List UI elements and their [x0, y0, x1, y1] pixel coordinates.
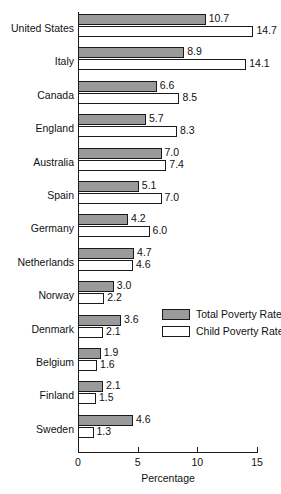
- bar-value-label: 3.6: [124, 314, 139, 325]
- bar-value-label: 8.9: [187, 46, 202, 57]
- bar-child: [78, 260, 133, 271]
- bar-child: [78, 126, 177, 137]
- category-label: Germany: [31, 223, 74, 234]
- bar-value-label: 14.7: [256, 25, 276, 36]
- x-axis-tick: [78, 447, 79, 452]
- bar-value-label: 1.9: [104, 347, 119, 358]
- bar-value-label: 3.0: [117, 280, 132, 291]
- x-axis-tick: [197, 447, 198, 452]
- bar-value-label: 8.5: [182, 92, 197, 103]
- bar-total: [78, 47, 184, 58]
- bar-child: [78, 160, 166, 171]
- legend-swatch-total-poverty-rate: [162, 309, 190, 320]
- bar-child: [78, 393, 96, 404]
- bar-total: [78, 248, 134, 259]
- bar-child: [78, 193, 162, 204]
- x-axis-tick-label: 5: [135, 456, 141, 468]
- bar-total: [78, 348, 101, 359]
- bar-child: [78, 93, 179, 104]
- bar-value-label: 1.6: [100, 359, 115, 370]
- bar-value-label: 2.1: [106, 326, 121, 337]
- x-axis-tick-label: 15: [251, 456, 263, 468]
- bar-value-label: 14.1: [249, 58, 269, 69]
- plot-area: United States10.714.7Italy8.914.1Canada6…: [0, 0, 281, 494]
- bar-value-label: 4.2: [131, 213, 146, 224]
- legend-swatch-child-poverty-rate: [162, 326, 190, 337]
- bar-value-label: 7.4: [169, 159, 184, 170]
- category-label: Sweden: [36, 424, 74, 435]
- bar-value-label: 5.1: [142, 180, 157, 191]
- category-label: Denmark: [31, 324, 74, 335]
- legend-label-child-poverty-rate: Child Poverty Rate: [196, 325, 281, 338]
- category-label: Spain: [47, 190, 74, 201]
- bar-total: [78, 14, 206, 25]
- category-label: Norway: [38, 290, 74, 301]
- x-axis-tick-label: 0: [75, 456, 81, 468]
- bar-total: [78, 81, 157, 92]
- bar-value-label: 6.0: [153, 225, 168, 236]
- bar-value-label: 1.5: [99, 392, 114, 403]
- bar-value-label: 5.7: [149, 113, 164, 124]
- category-label: Belgium: [36, 357, 74, 368]
- bar-child: [78, 427, 94, 438]
- bar-child: [78, 226, 150, 237]
- bar-value-label: 7.0: [165, 147, 180, 158]
- category-label: Italy: [55, 56, 74, 67]
- x-axis-title: Percentage: [78, 472, 258, 484]
- bar-value-label: 7.0: [165, 192, 180, 203]
- bar-value-label: 2.1: [106, 380, 121, 391]
- bar-value-label: 4.7: [137, 247, 152, 258]
- bar-child: [78, 327, 103, 338]
- x-axis-tick: [257, 447, 258, 452]
- category-label: United States: [11, 23, 74, 34]
- category-label: Finland: [40, 390, 74, 401]
- bar-total: [78, 214, 128, 225]
- poverty-rate-bar-chart: United States10.714.7Italy8.914.1Canada6…: [0, 0, 281, 494]
- x-axis-line: [78, 452, 258, 453]
- bar-child: [78, 360, 97, 371]
- bar-value-label: 2.2: [107, 292, 122, 303]
- category-label: Australia: [33, 157, 74, 168]
- x-axis-tick-label: 10: [191, 456, 203, 468]
- bar-value-label: 10.7: [209, 13, 229, 24]
- bar-value-label: 8.3: [180, 125, 195, 136]
- bar-value-label: 4.6: [136, 259, 151, 270]
- bar-value-label: 1.3: [97, 426, 112, 437]
- bar-child: [78, 26, 253, 37]
- bar-child: [78, 59, 246, 70]
- category-label: Netherlands: [17, 257, 74, 268]
- x-axis-tick: [138, 447, 139, 452]
- category-label: Canada: [37, 90, 74, 101]
- bar-child: [78, 293, 104, 304]
- bar-total: [78, 148, 162, 159]
- legend-label-total-poverty-rate: Total Poverty Rate: [196, 308, 281, 321]
- category-label: England: [35, 123, 74, 134]
- bar-total: [78, 114, 146, 125]
- bar-total: [78, 181, 139, 192]
- bar-total: [78, 315, 121, 326]
- bar-value-label: 6.6: [160, 80, 175, 91]
- bar-value-label: 4.6: [136, 414, 151, 425]
